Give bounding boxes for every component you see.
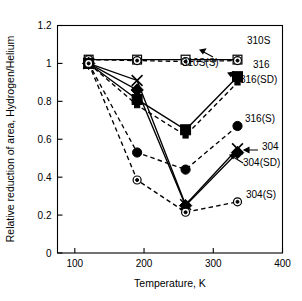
- series-316s: [84, 59, 242, 174]
- data-point-marker: [233, 121, 242, 130]
- data-series-layer: [82, 55, 243, 216]
- x-axis-ticks: 100200300400: [66, 248, 291, 269]
- y-tick-label: 0.8: [38, 96, 52, 107]
- y-tick-label: 0: [46, 248, 52, 259]
- data-point-marker-dot: [236, 59, 239, 62]
- series-304: [83, 58, 243, 210]
- x-tick-label: 300: [205, 258, 222, 269]
- series-304sd: [82, 57, 243, 212]
- series-annotation-316: 316: [253, 59, 270, 70]
- series-annotation-310ss: 310S(S): [182, 57, 219, 68]
- series-annotation-304: 304: [262, 141, 279, 152]
- data-point-marker: [135, 103, 140, 108]
- data-point-marker-dot: [136, 59, 139, 62]
- data-point-marker: [183, 133, 188, 138]
- series-line: [89, 63, 238, 204]
- x-tick-label: 200: [136, 258, 153, 269]
- data-point-marker: [133, 148, 142, 157]
- data-point-marker-dot: [184, 211, 187, 214]
- series-annotation-316s: 316(S): [245, 113, 275, 124]
- data-point-marker-dot: [136, 179, 139, 182]
- data-point-marker-dot: [87, 62, 90, 65]
- data-point-marker: [181, 165, 190, 174]
- chart-canvas: 00.20.40.60.811.2 100200300400 310S310S(…: [0, 0, 302, 301]
- x-axis-title: Temperature, K: [134, 277, 206, 289]
- series-line: [89, 63, 238, 205]
- y-tick-label: 0.4: [38, 172, 52, 183]
- y-tick-label: 0.6: [38, 134, 52, 145]
- y-tick-label: 0.2: [38, 210, 52, 221]
- series-annotation-304sd: 304(SD): [243, 157, 280, 168]
- series-line: [89, 63, 238, 129]
- series-line: [89, 63, 238, 212]
- chart-figure: 00.20.40.60.811.2 100200300400 310S310S(…: [0, 0, 302, 301]
- series-304s: [85, 59, 242, 216]
- x-tick-label: 400: [274, 258, 291, 269]
- series-annotation-304s: 304(S): [246, 189, 276, 200]
- series-316sd: [86, 61, 240, 138]
- series-annotation-316sd: 316(SD): [240, 74, 277, 85]
- y-tick-label: 1.2: [38, 20, 52, 31]
- y-tick-label: 1: [46, 58, 52, 69]
- leader-arrow-304: [244, 147, 258, 152]
- x-tick-label: 100: [66, 258, 83, 269]
- data-point-marker-dot: [236, 200, 239, 203]
- leader-arrow-310ss: [200, 49, 213, 57]
- y-axis-title: Relative reduction of area, Hydrogen/Hel…: [4, 35, 16, 242]
- y-axis-ticks: 00.20.40.60.811.2: [38, 20, 63, 259]
- series-annotation-310s: 310S: [247, 35, 271, 46]
